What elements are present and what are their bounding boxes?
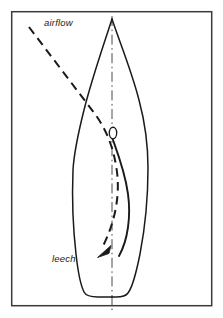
diagram-canvas: airflow leech xyxy=(0,0,223,318)
label-leech: leech xyxy=(52,253,76,264)
sail-airflow-diagram: airflow leech xyxy=(0,0,223,318)
mast-section-icon xyxy=(109,127,116,139)
page-background xyxy=(0,0,223,318)
label-airflow: airflow xyxy=(44,17,74,28)
